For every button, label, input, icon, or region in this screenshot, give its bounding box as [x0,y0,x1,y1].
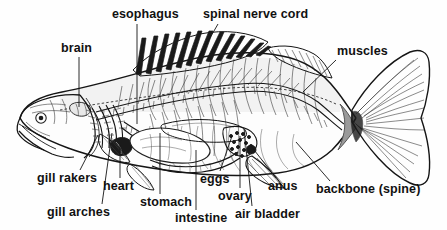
label-spinal-nerve-cord: spinal nerve cord [203,8,308,21]
label-air-bladder: air bladder [235,208,300,221]
label-anus: anus [268,180,298,193]
label-intestine: intestine [175,212,227,225]
label-gill-rakers: gill rakers [37,172,97,185]
heart [111,138,133,156]
label-eggs: eggs [200,173,230,186]
label-brain: brain [61,42,92,55]
label-stomach: stomach [140,196,192,209]
label-ovary: ovary [218,190,252,203]
label-heart: heart [103,180,134,193]
label-esophagus: esophagus [112,8,179,21]
caudal-fin [338,50,430,185]
fish-anatomy-diagram: brain esophagus spinal nerve cord muscle… [0,0,447,230]
label-muscles: muscles [337,45,388,58]
label-backbone-spine: backbone (spine) [316,183,420,196]
label-gill-arches: gill arches [47,206,110,219]
